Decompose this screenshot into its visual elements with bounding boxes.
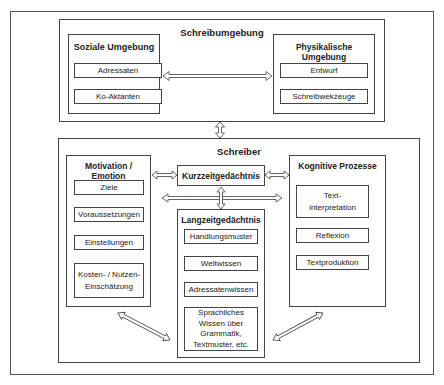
arrow-motivation-langzeit (116, 309, 172, 343)
arrow-soziale-physikalische (163, 72, 272, 81)
arrows-layer (0, 0, 444, 385)
arrow-umgebung-schreiber (216, 122, 225, 138)
arrow-langzeit-kognitive (271, 309, 325, 343)
arrow-kurzzeit-kognitive (265, 171, 289, 179)
arrow-motivation-kurzzeit (152, 171, 177, 179)
